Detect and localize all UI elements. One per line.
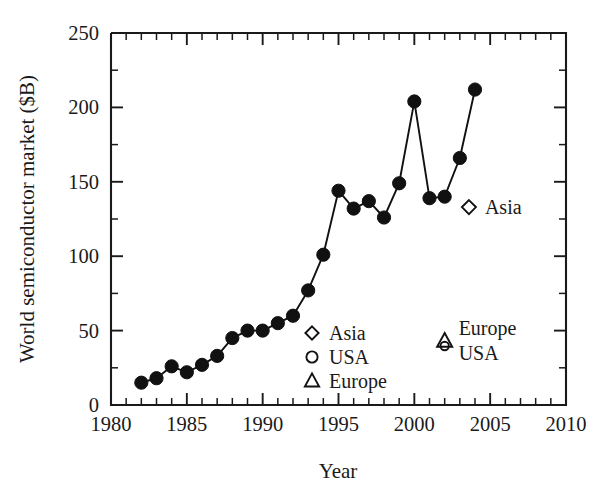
x-tick-label: 1980 bbox=[91, 413, 132, 435]
data-point bbox=[332, 184, 345, 197]
x-tick-label: 1985 bbox=[166, 413, 207, 435]
annotation-usa-label: USA bbox=[459, 342, 500, 364]
legend-label-asia: Asia bbox=[329, 322, 366, 344]
data-point bbox=[241, 324, 254, 337]
x-tick-label: 2010 bbox=[546, 413, 587, 435]
chart-figure: 1980198519901995200020052010 05010015020… bbox=[0, 0, 616, 492]
data-point bbox=[377, 211, 390, 224]
y-tick-label: 250 bbox=[68, 22, 99, 44]
y-tick-label: 150 bbox=[68, 171, 99, 193]
data-point bbox=[256, 324, 269, 337]
x-tick-label: 1995 bbox=[318, 413, 359, 435]
data-point bbox=[302, 284, 315, 297]
y-tick-label: 0 bbox=[89, 394, 99, 416]
y-tick-label: 200 bbox=[68, 96, 99, 118]
x-tick-label: 2000 bbox=[394, 413, 435, 435]
annotation-europe-label: Europe bbox=[459, 317, 517, 340]
y-axis-title: World semiconductor market ($B) bbox=[15, 75, 39, 363]
data-point bbox=[393, 177, 406, 190]
data-point bbox=[362, 195, 375, 208]
data-point bbox=[408, 95, 421, 108]
x-tick-label: 2005 bbox=[470, 413, 511, 435]
data-point bbox=[468, 83, 481, 96]
data-point bbox=[286, 309, 299, 322]
data-point bbox=[423, 192, 436, 205]
legend-label-europe: Europe bbox=[329, 370, 387, 393]
data-point bbox=[271, 317, 284, 330]
legend-label-usa: USA bbox=[329, 346, 370, 368]
data-point bbox=[317, 248, 330, 261]
data-point bbox=[453, 151, 466, 164]
data-point bbox=[438, 190, 451, 203]
y-tick-label: 100 bbox=[68, 245, 99, 267]
x-axis-title: Year bbox=[319, 459, 358, 483]
y-tick-label: 50 bbox=[79, 320, 100, 342]
annotation-asia-label: Asia bbox=[485, 196, 522, 218]
x-tick-label: 1990 bbox=[242, 413, 283, 435]
data-point bbox=[150, 372, 163, 385]
data-point bbox=[347, 202, 360, 215]
data-point bbox=[211, 349, 224, 362]
data-point bbox=[165, 360, 178, 373]
semiconductor-market-line-chart: 1980198519901995200020052010 05010015020… bbox=[0, 0, 616, 492]
data-point bbox=[180, 366, 193, 379]
data-point bbox=[226, 331, 239, 344]
data-point bbox=[195, 358, 208, 371]
data-point bbox=[135, 376, 148, 389]
